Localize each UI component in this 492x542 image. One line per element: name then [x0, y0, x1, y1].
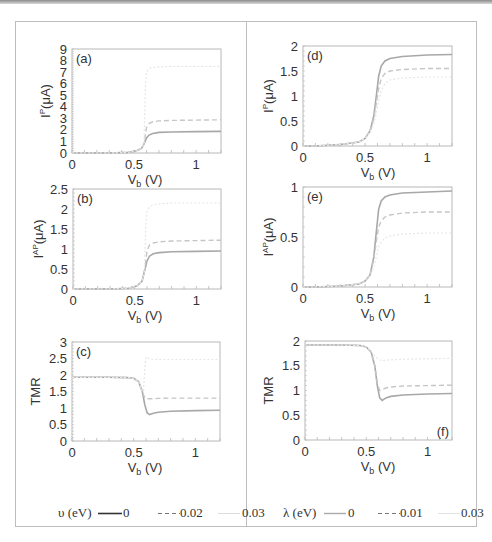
y-tick-label: 1.5: [50, 222, 68, 237]
x-tick-label: 0: [299, 150, 306, 165]
plot-frame: [72, 342, 220, 441]
panel-label: (f): [437, 424, 449, 439]
y-tick-label: 0.5: [280, 230, 298, 245]
x-tick-label: 1: [424, 444, 431, 459]
solid-line-swatch-icon: [98, 512, 122, 515]
panel-f: 00.5100.511.52Vb (V)TMR(f): [261, 334, 452, 477]
y-tick-label: 1: [291, 89, 298, 104]
plot-frame: [73, 189, 221, 289]
legend-entry-label: 0: [123, 505, 130, 521]
panel-a: 00.510123456789Vb (V)IP(μA)(a): [38, 42, 221, 190]
x-tick-label: 1: [424, 291, 431, 306]
y-tick-label: 1.5: [282, 358, 300, 373]
x-tick-label: 1: [193, 157, 200, 172]
x-tick-label: 0: [69, 293, 76, 308]
x-tick-label: 0: [68, 157, 75, 172]
legend-entry-label: 0.03: [461, 505, 484, 521]
y-axis-label: IP(μA): [38, 84, 53, 118]
x-axis-label: Vb (V): [128, 308, 163, 325]
y-tick-label: 2: [291, 39, 298, 54]
y-axis-label: IP(μA): [261, 79, 276, 113]
x-tick-label: 0.5: [356, 291, 374, 306]
y-tick-label: 0.5: [280, 114, 298, 129]
x-axis-label: Vb (V): [128, 172, 163, 189]
y-tick-label: 0: [293, 433, 300, 448]
y-tick-label: 3: [60, 335, 67, 350]
panel-c: 00.5100.511.522.53Vb (V)TMR(c): [28, 335, 220, 478]
y-axis-label: IAP(μA): [261, 217, 276, 256]
y-tick-label: 0: [60, 434, 67, 449]
x-tick-label: 0.5: [357, 444, 375, 459]
solid-line-swatch-icon: [324, 512, 346, 515]
x-tick-label: 0: [301, 444, 308, 459]
dotted-line-swatch-icon: [218, 512, 240, 515]
x-axis-label: Vb (V): [128, 460, 163, 477]
legend-title: υ (eV): [58, 505, 92, 521]
x-axis-label: Vb (V): [361, 459, 396, 476]
legend-entry-label: 0.03: [242, 505, 265, 521]
dashed-line-swatch-icon: [378, 512, 400, 515]
legend-entry-label: 0.02: [180, 505, 203, 521]
y-tick-label: 1.5: [49, 384, 67, 399]
y-axis-label: TMR: [261, 376, 276, 404]
panel-label: (c): [76, 344, 91, 359]
y-tick-label: 1: [293, 383, 300, 398]
y-tick-label: 0: [291, 280, 298, 295]
y-tick-label: 1: [291, 180, 298, 195]
y-axis-label: IAP(μA): [31, 219, 46, 258]
y-tick-label: 0: [61, 282, 68, 297]
y-tick-label: 9: [60, 42, 67, 57]
y-tick-label: 0.5: [49, 417, 67, 432]
panel-d: 00.5100.511.52Vb (V)IP(μA)(d): [261, 39, 452, 183]
y-tick-label: 2: [293, 334, 300, 349]
panel-label: (e): [307, 189, 323, 204]
x-axis-label: Vb (V): [361, 306, 396, 323]
legend-entry-label: 0: [348, 505, 355, 521]
legend-entry-label: 0.01: [400, 505, 423, 521]
x-tick-label: 0.5: [356, 150, 374, 165]
x-tick-label: 0.5: [126, 293, 144, 308]
y-tick-label: 0.5: [282, 408, 300, 423]
y-tick-label: 1: [61, 242, 68, 257]
panel-label: (d): [307, 48, 323, 63]
x-tick-label: 0: [299, 291, 306, 306]
plot-frame: [303, 187, 452, 287]
y-tick-label: 2: [60, 368, 67, 383]
y-tick-label: 2.5: [50, 182, 68, 197]
figure-canvas: 00.510123456789Vb (V)IP(μA)(a)00.5100.51…: [0, 0, 492, 542]
y-tick-label: 1.5: [280, 64, 298, 79]
x-axis-label: Vb (V): [361, 165, 396, 182]
panel-label: (b): [77, 191, 93, 206]
panel-label: (a): [76, 51, 92, 66]
y-tick-label: 0.5: [50, 262, 68, 277]
x-tick-label: 0: [68, 445, 75, 460]
y-tick-label: 2.5: [49, 351, 67, 366]
y-axis-label: TMR: [28, 377, 43, 405]
y-tick-label: 1: [60, 401, 67, 416]
legend-title: λ (eV): [283, 505, 316, 521]
x-tick-label: 1: [193, 293, 200, 308]
dotted-line-swatch-icon: [438, 512, 460, 515]
x-tick-label: 1: [192, 445, 199, 460]
y-tick-label: 0: [291, 139, 298, 154]
x-tick-label: 1: [424, 150, 431, 165]
x-tick-label: 0.5: [125, 445, 143, 460]
dashed-line-swatch-icon: [158, 512, 180, 515]
y-tick-label: 2: [61, 202, 68, 217]
panel-e: 00.5100.51Vb (V)IAP(μA)(e): [261, 180, 452, 324]
panel-b: 00.5100.511.522.5Vb (V)IAP(μA)(b): [31, 182, 221, 326]
x-tick-label: 0.5: [125, 157, 143, 172]
